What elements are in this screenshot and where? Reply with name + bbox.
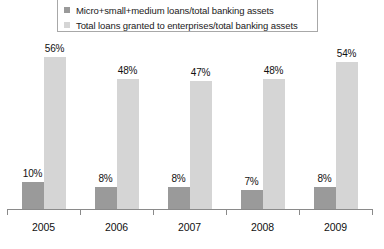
bar-2008-series-0 — [241, 190, 263, 209]
bar-2006-series-1 — [117, 79, 139, 209]
x-axis-tick-4 — [299, 209, 300, 215]
legend-item-0: Micro+small+medium loans/total banking a… — [64, 3, 317, 17]
bar-value-label-2005-series-1: 56% — [44, 43, 66, 54]
x-axis-tick-1 — [80, 209, 81, 215]
x-axis-label-2006: 2006 — [80, 221, 153, 233]
x-axis-tick-3 — [226, 209, 227, 215]
chart-legend: Micro+small+medium loans/total banking a… — [57, 0, 318, 32]
bar-2005-series-1 — [44, 57, 66, 209]
bar-value-label-2009-series-1: 54% — [336, 48, 358, 59]
legend-label-1: Total loans granted to enterprises/total… — [76, 20, 298, 31]
legend-item-1: Total loans granted to enterprises/total… — [64, 18, 317, 32]
bar-2009-series-0 — [314, 187, 336, 209]
legend-label-0: Micro+small+medium loans/total banking a… — [76, 5, 274, 16]
bar-2009-series-1 — [336, 62, 358, 209]
x-axis-line — [7, 209, 372, 210]
bar-2007-series-1 — [190, 81, 212, 209]
bar-value-label-2007-series-1: 47% — [190, 67, 212, 78]
bar-value-label-2006-series-1: 48% — [117, 65, 139, 76]
x-axis-label-2005: 2005 — [7, 221, 80, 233]
bar-value-label-2007-series-0: 8% — [168, 173, 190, 184]
chart-plot-area: 10%56%8%48%8%47%7%48%8%54% 2005200620072… — [0, 0, 384, 249]
bar-value-label-2005-series-0: 10% — [22, 168, 44, 179]
legend-swatch-icon-0 — [64, 7, 70, 13]
bar-2008-series-1 — [263, 79, 285, 209]
bar-2006-series-0 — [95, 187, 117, 209]
legend-swatch-icon-1 — [64, 22, 70, 28]
bar-2007-series-0 — [168, 187, 190, 209]
bar-value-label-2008-series-0: 7% — [241, 176, 263, 187]
x-axis-tick-end — [372, 209, 373, 215]
bar-value-label-2009-series-0: 8% — [314, 173, 336, 184]
x-axis-label-2007: 2007 — [153, 221, 226, 233]
x-axis-tick-0 — [7, 209, 8, 215]
x-axis-label-2009: 2009 — [299, 221, 372, 233]
x-axis-label-2008: 2008 — [226, 221, 299, 233]
x-axis-tick-2 — [153, 209, 154, 215]
chart-screenshot: 10%56%8%48%8%47%7%48%8%54% 2005200620072… — [0, 0, 384, 249]
bar-value-label-2008-series-1: 48% — [263, 65, 285, 76]
bar-2005-series-0 — [22, 182, 44, 209]
bar-value-label-2006-series-0: 8% — [95, 173, 117, 184]
